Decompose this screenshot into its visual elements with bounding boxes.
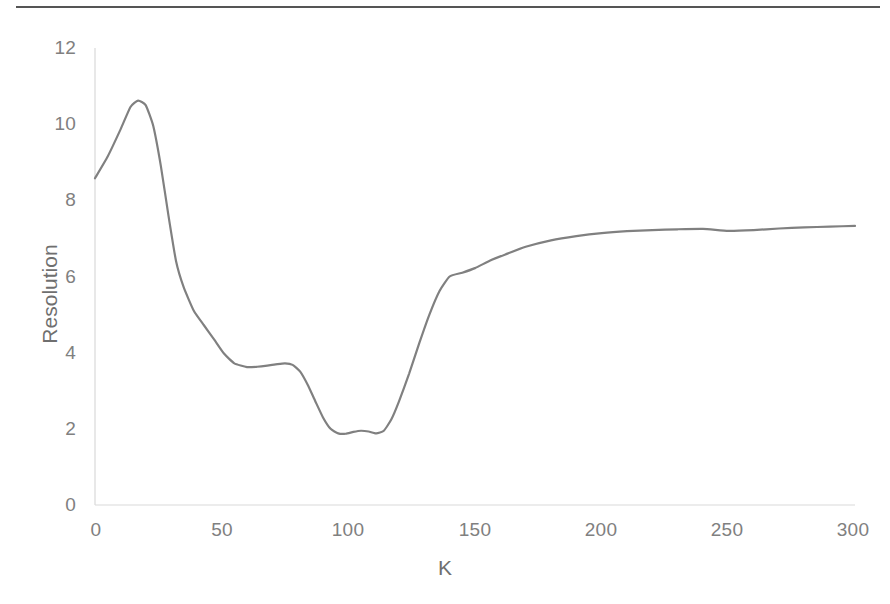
y-tick-label: 0	[36, 494, 76, 516]
plot-area: 12 10 8 6 4 2 0 0 50 100 150 200 250 300…	[0, 0, 890, 604]
y-tick-label: 10	[36, 113, 76, 135]
x-tick-label: 0	[91, 519, 102, 541]
x-tick-label: 300	[837, 519, 869, 541]
chart-figure: 12 10 8 6 4 2 0 0 50 100 150 200 250 300…	[0, 0, 890, 604]
x-axis-title: K	[0, 556, 890, 580]
y-axis-title: Resolution	[38, 224, 62, 364]
x-tick-label: 200	[585, 519, 617, 541]
series-line-resolution	[95, 101, 855, 434]
x-tick-label: 250	[711, 519, 743, 541]
y-tick-label: 12	[36, 37, 76, 59]
x-tick-label: 150	[459, 519, 491, 541]
x-tick-label: 50	[211, 519, 233, 541]
y-tick-label: 2	[36, 418, 76, 440]
y-tick-label: 8	[36, 189, 76, 211]
x-tick-label: 100	[332, 519, 364, 541]
line-chart-svg	[0, 0, 890, 604]
